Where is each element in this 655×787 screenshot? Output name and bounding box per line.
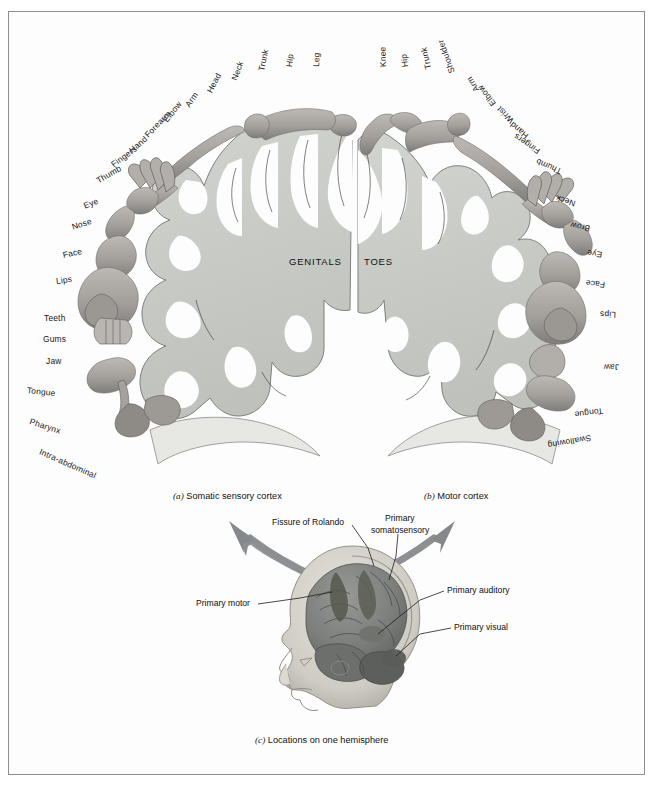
callout-primary-motor: Primary motor [196, 598, 250, 609]
callout-primary-somatosensory-line2: somatosensory [371, 525, 429, 536]
callout-primary-visual: Primary visual [454, 622, 508, 633]
hemisphere-diagram [229, 521, 455, 711]
sensory-label: Gums [43, 334, 66, 344]
caption-c: (c) Locations on one hemisphere [255, 735, 388, 745]
caption-c-marker: (c) [255, 735, 265, 745]
sensory-label: Hip [284, 53, 295, 67]
callout-fissure-of-rolando: Fissure of Rolando [272, 517, 344, 528]
motor-label: Hip [399, 53, 410, 67]
motor-label: Lips [600, 309, 617, 320]
caption-b-text: Motor cortex [437, 491, 488, 501]
homunculus-illustration [0, 0, 655, 787]
caption-b: (b) Motor cortex [424, 491, 488, 501]
midline-label-genitals: GENITALS [289, 256, 342, 267]
motor-label: Eye [586, 248, 602, 260]
motor-label: Face [585, 278, 605, 290]
callout-primary-auditory: Primary auditory [447, 585, 510, 596]
motor-label: Knee [377, 46, 388, 67]
caption-a-text: Somatic sensory cortex [186, 491, 281, 501]
caption-b-marker: (b) [424, 491, 435, 501]
figure-page: Leg Hip Trunk Neck Head Arm Elbow Forear… [0, 0, 655, 787]
sensory-label: Leg [311, 52, 322, 67]
caption-a-marker: (a) [173, 491, 184, 501]
motor-label: Jaw [603, 362, 619, 373]
midline-label-toes: TOES [364, 256, 393, 267]
caption-a: (a) Somatic sensory cortex [173, 491, 282, 501]
sensory-label: Jaw [46, 356, 62, 366]
sensory-label: Teeth [44, 313, 66, 323]
caption-c-text: Locations on one hemisphere [268, 735, 389, 745]
callout-primary-somatosensory-line1: Primary [385, 513, 415, 524]
